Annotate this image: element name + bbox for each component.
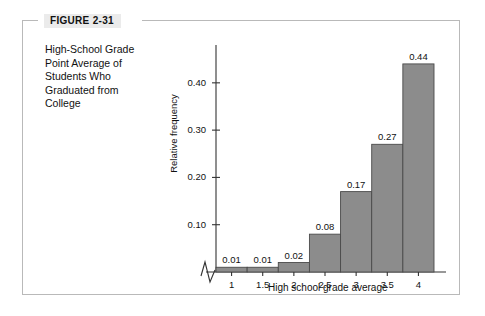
bar	[247, 267, 278, 272]
y-tick-label: 0.10	[172, 219, 206, 230]
bar	[372, 144, 403, 272]
y-tick-label: 0.40	[172, 77, 206, 88]
figure-tag-label: FIGURE 2-31	[44, 14, 121, 28]
x-tick-label: 1	[219, 279, 245, 290]
bar-value-label: 0.08	[310, 221, 340, 232]
figure-root: FIGURE 2-31 High-School Grade Point Aver…	[0, 0, 485, 316]
bar-value-label: 0.01	[217, 254, 247, 265]
bar	[309, 234, 340, 272]
bars-group	[216, 64, 434, 272]
x-tick-label: 4	[405, 279, 431, 290]
histogram-plot: Relative frequency 0.100.200.300.40 11.5…	[160, 32, 456, 294]
y-tick-label: 0.30	[172, 124, 206, 135]
bar-value-label: 0.44	[403, 51, 433, 62]
x-tick-marks	[232, 272, 419, 276]
x-axis-title: High school grade average	[268, 282, 388, 293]
bar	[278, 263, 309, 272]
bar	[403, 64, 434, 272]
bar-value-label: 0.17	[341, 179, 371, 190]
bar	[216, 267, 247, 272]
figure-caption: High-School Grade Point Average of Stude…	[45, 43, 157, 111]
bar	[341, 192, 372, 272]
bar-value-label: 0.01	[248, 254, 278, 265]
bar-value-label: 0.27	[372, 131, 402, 142]
bar-value-label: 0.02	[279, 250, 309, 261]
y-tick-label: 0.20	[172, 171, 206, 182]
